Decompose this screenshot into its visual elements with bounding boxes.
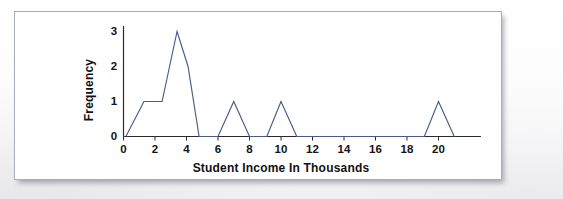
- y-axis-title: Frequency: [82, 59, 96, 122]
- x-tick-label-4: 4: [183, 143, 190, 155]
- frequency-polygon-chart: Frequency 3 2 1 0: [15, 12, 503, 181]
- figure-root: Frequency 3 2 1 0: [0, 0, 563, 199]
- x-tick-label-8: 8: [246, 143, 253, 155]
- y-tick-label-0: 0: [111, 130, 117, 142]
- x-axis-tick-marks: [124, 137, 439, 141]
- x-tick-label-2: 2: [152, 143, 158, 155]
- x-tick-label-18: 18: [401, 143, 414, 155]
- y-tick-label-1: 1: [111, 95, 118, 107]
- x-tick-label-16: 16: [369, 143, 382, 155]
- x-tick-label-20: 20: [432, 143, 445, 155]
- x-tick-label-12: 12: [306, 143, 319, 155]
- x-tick-label-14: 14: [338, 143, 351, 155]
- x-tick-label-6: 6: [215, 143, 221, 155]
- x-tick-label-10: 10: [275, 143, 288, 155]
- plot-area: Frequency 3 2 1 0: [15, 12, 501, 179]
- chart-card: Frequency 3 2 1 0: [14, 11, 502, 180]
- y-tick-label-3: 3: [111, 25, 117, 37]
- frequency-polygon-line: [126, 32, 454, 137]
- x-tick-label-0: 0: [120, 143, 126, 155]
- y-tick-label-2: 2: [111, 60, 117, 72]
- x-axis-title: Student Income In Thousands: [193, 161, 370, 175]
